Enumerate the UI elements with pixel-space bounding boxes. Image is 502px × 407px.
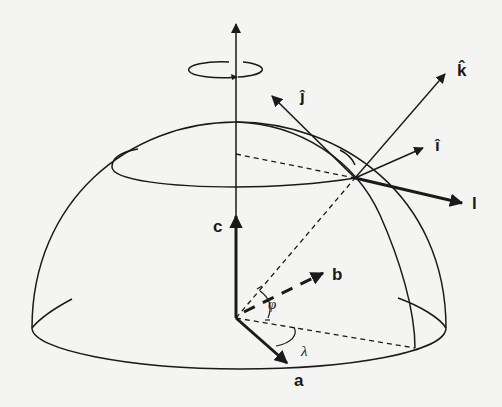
rotation-indicator [189,62,263,78]
vector-a [236,318,287,363]
label-lambda: λ [301,344,308,359]
label-phi: φ [268,297,276,312]
diagram-svg [0,0,502,407]
label-c: c [213,218,222,235]
angle-lambda [276,327,295,346]
label-l: l [472,195,477,212]
vector-b [244,273,323,312]
label-b: b [332,266,342,283]
meridian [236,122,415,348]
diagram-canvas: ĵ k̂ î l c b a φ λ [0,0,502,407]
label-k-hat: k̂ [457,62,466,79]
label-a: a [294,372,303,389]
latitude-circle [112,149,355,187]
label-j-hat: ĵ [300,88,305,105]
vector-k-hat [355,74,445,178]
label-i-hat: î [435,137,440,154]
vector-j-hat [272,96,355,178]
base-ellipse [32,328,446,369]
